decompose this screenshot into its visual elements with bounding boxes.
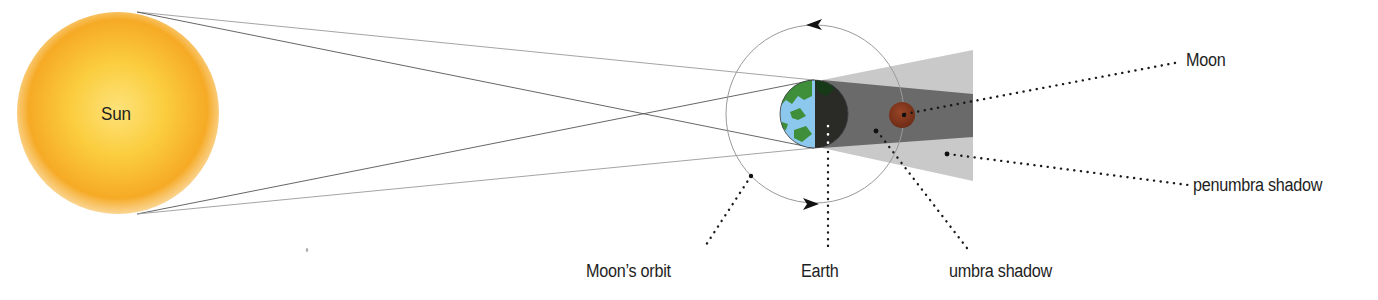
scan-artifact	[306, 248, 309, 252]
lunar-eclipse-diagram: Sun Moon penumbra shadow Moon’s orbit Ea…	[0, 0, 1378, 300]
moon-label: Moon	[1186, 50, 1225, 70]
umbra-shadow-label: umbra shadow	[949, 261, 1052, 281]
diagram-canvas	[0, 0, 1378, 300]
earth-label: Earth	[801, 261, 838, 281]
penumbra-shadow-label: penumbra shadow	[1193, 175, 1322, 195]
arrow-right-icon	[803, 198, 819, 210]
sun-rays	[137, 12, 814, 214]
arrow-left-icon	[806, 19, 822, 30]
sun-label: Sun	[101, 104, 131, 124]
moon-orbit-label: Moon’s orbit	[586, 261, 671, 281]
